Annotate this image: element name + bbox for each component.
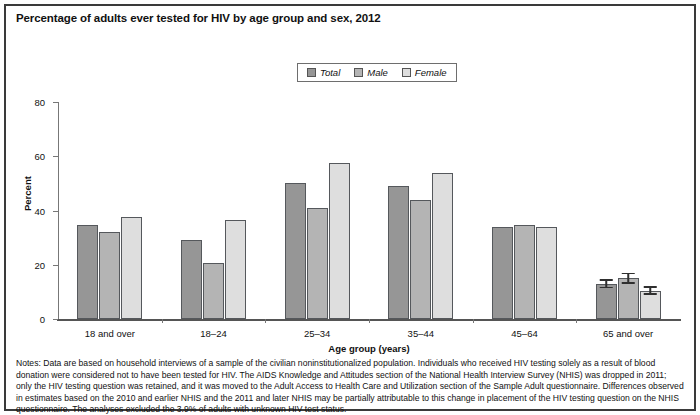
legend-label-male: Male — [367, 67, 388, 78]
y-axis-line — [58, 102, 59, 319]
bar-rect — [181, 240, 202, 319]
bar-rect — [536, 227, 557, 319]
error-bar-cap-bottom — [600, 287, 613, 289]
x-axis-label: 25–34 — [304, 328, 330, 339]
error-bar — [627, 273, 629, 284]
bar-total[interactable] — [492, 102, 513, 319]
error-bar-cap-top — [622, 273, 635, 275]
x-axis-label: 18–24 — [200, 328, 226, 339]
figure-border-left — [4, 4, 6, 411]
bar-rect — [388, 186, 409, 319]
bar-rect — [307, 208, 328, 319]
bar-group — [181, 102, 246, 319]
bar-group — [388, 102, 453, 319]
plot-area: 02040608018 and over18–2425–3435–4445–64… — [58, 102, 680, 319]
chart-title: Percentage of adults ever tested for HIV… — [16, 12, 381, 24]
bar-male[interactable] — [410, 102, 431, 319]
legend-swatch-female-icon — [402, 68, 411, 77]
legend-label-female: Female — [415, 67, 447, 78]
legend-label-total: Total — [320, 67, 340, 78]
y-axis-tick: 40 — [53, 211, 58, 212]
bar-female[interactable] — [640, 102, 661, 319]
bar-rect — [596, 284, 617, 319]
bar-rect — [618, 278, 639, 319]
x-axis-tick — [369, 319, 370, 323]
chart-notes: Notes: Data are based on household inter… — [16, 358, 684, 415]
bar-male[interactable] — [99, 102, 120, 319]
bar-rect — [492, 227, 513, 319]
bar-rect — [514, 225, 535, 319]
chart-legend: TotalMaleFemale — [297, 63, 457, 82]
bar-rect — [99, 232, 120, 319]
x-axis-tick — [576, 319, 577, 323]
figure-border-right — [694, 4, 696, 411]
y-axis-tick-label: 20 — [34, 259, 45, 270]
legend-swatch-total-icon — [307, 68, 316, 77]
bar-rect — [432, 173, 453, 319]
bar-total[interactable] — [596, 102, 617, 319]
y-axis-tick: 80 — [53, 102, 58, 103]
bar-total[interactable] — [77, 102, 98, 319]
x-axis-label: 65 and over — [603, 328, 653, 339]
bar-rect — [285, 183, 306, 319]
bar-total[interactable] — [285, 102, 306, 319]
notes-label: Notes: — [16, 358, 41, 368]
bar-group — [77, 102, 142, 319]
error-bar-cap-bottom — [644, 293, 657, 295]
bar-female[interactable] — [432, 102, 453, 319]
x-axis-title: Age group (years) — [58, 343, 680, 354]
bar-group — [285, 102, 350, 319]
bar-rect — [203, 263, 224, 319]
error-bar-cap-top — [600, 279, 613, 281]
legend-item-male[interactable]: Male — [354, 67, 388, 78]
legend-item-total[interactable]: Total — [307, 67, 340, 78]
bar-female[interactable] — [536, 102, 557, 319]
bar-female[interactable] — [329, 102, 350, 319]
bar-group — [596, 102, 661, 319]
y-axis-tick-label: 0 — [40, 314, 45, 325]
error-bar-cap-top — [644, 286, 657, 288]
y-axis-tick: 0 — [53, 319, 58, 320]
x-axis-tick — [473, 319, 474, 323]
bar-female[interactable] — [121, 102, 142, 319]
bar-rect — [225, 220, 246, 319]
error-bar — [605, 279, 607, 288]
y-axis-tick: 60 — [53, 156, 58, 157]
x-axis-label: 35–44 — [408, 328, 434, 339]
x-axis-tick — [162, 319, 163, 323]
bar-total[interactable] — [181, 102, 202, 319]
bar-male[interactable] — [618, 102, 639, 319]
bar-rect — [329, 163, 350, 319]
bar-female[interactable] — [225, 102, 246, 319]
legend-item-female[interactable]: Female — [402, 67, 447, 78]
figure-border-top — [4, 4, 696, 6]
x-axis-label: 18 and over — [85, 328, 135, 339]
bar-group — [492, 102, 557, 319]
legend-swatch-male-icon — [354, 68, 363, 77]
bar-male[interactable] — [203, 102, 224, 319]
bar-total[interactable] — [388, 102, 409, 319]
y-axis-title: Percent — [22, 176, 33, 211]
chart-figure: Percentage of adults ever tested for HIV… — [0, 0, 700, 415]
x-axis-label: 45–64 — [511, 328, 537, 339]
x-axis-tick — [265, 319, 266, 323]
bar-rect — [410, 200, 431, 319]
error-bar — [649, 286, 651, 295]
bar-rect — [121, 217, 142, 319]
error-bar-cap-bottom — [622, 282, 635, 284]
bar-male[interactable] — [307, 102, 328, 319]
y-axis-tick: 20 — [53, 265, 58, 266]
bar-male[interactable] — [514, 102, 535, 319]
y-axis-tick-label: 80 — [34, 97, 45, 108]
notes-body: Data are based on household interviews o… — [16, 358, 684, 414]
bar-rect — [77, 225, 98, 319]
y-axis-tick-label: 60 — [34, 151, 45, 162]
y-axis-tick-label: 40 — [34, 205, 45, 216]
